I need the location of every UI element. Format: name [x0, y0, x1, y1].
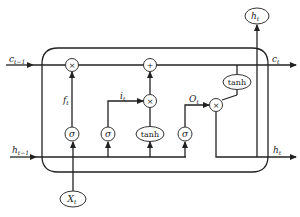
add-node: + [144, 59, 157, 72]
input-gate-line [108, 101, 143, 127]
output-gate-label: Ot [189, 94, 199, 105]
output-multiply-node: × [210, 99, 223, 112]
forget-sigmoid-node: σ [65, 127, 79, 141]
cell-tanh-node: tanh [223, 75, 251, 90]
svg-text:tanh: tanh [228, 78, 246, 87]
output-gate-line [185, 105, 209, 127]
h-out-line [216, 112, 296, 157]
input-multiply-node: × [144, 95, 157, 108]
output-sigmoid-node: σ [178, 127, 192, 141]
svg-text:σ: σ [105, 129, 112, 139]
forget-multiply-node: × [66, 59, 79, 72]
input-gate-label: it [120, 91, 126, 102]
h-out-label: ht [273, 145, 282, 156]
svg-text:×: × [69, 61, 76, 70]
svg-text:σ: σ [182, 129, 189, 139]
c-out-label: ct [272, 54, 280, 65]
svg-text:×: × [213, 101, 220, 110]
svg-text:×: × [147, 97, 154, 106]
h-prev-label: ht−1 [12, 145, 29, 156]
svg-text:+: + [147, 61, 154, 70]
h-output-node: ht [245, 8, 269, 24]
c-prev-label: ct−1 [9, 54, 25, 65]
input-sigmoid-node: σ [101, 127, 115, 141]
candidate-tanh-node: tanh [136, 127, 164, 142]
svg-text:tanh: tanh [141, 130, 159, 139]
svg-text:σ: σ [69, 129, 76, 139]
x-input-node: Xt [60, 191, 86, 207]
forget-gate-label: ft [62, 95, 69, 106]
lstm-diagram: × + × × σ σ tanh σ tanh ht Xt ct−1 ct [0, 0, 300, 217]
